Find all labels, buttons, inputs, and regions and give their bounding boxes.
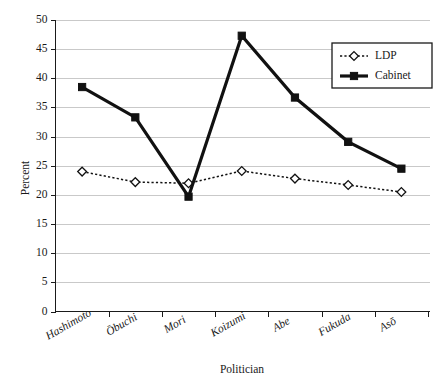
data-point-cabinet-5[interactable] (345, 138, 352, 145)
line-chart: 05101520253035404550 HashimotoŌbuchiMori… (0, 0, 443, 385)
legend-label-ldp: LDP (375, 49, 397, 61)
y-tick-label-0: 0 (42, 305, 48, 317)
y-tick-label-40: 40 (36, 71, 48, 83)
y-tick-label-25: 25 (36, 159, 48, 171)
y-axis-title: Percent (19, 160, 31, 195)
data-point-cabinet-6[interactable] (398, 165, 405, 172)
legend-label-cabinet: Cabinet (375, 69, 412, 81)
data-point-cabinet-0[interactable] (79, 83, 86, 90)
legend-marker-cabinet (350, 72, 357, 79)
data-point-cabinet-2[interactable] (185, 193, 192, 200)
y-tick-label-20: 20 (36, 188, 48, 200)
data-point-cabinet-1[interactable] (132, 114, 139, 121)
y-tick-label-5: 5 (42, 275, 48, 287)
data-point-cabinet-4[interactable] (291, 94, 298, 101)
y-tick-label-50: 50 (36, 13, 48, 25)
y-tick-label-15: 15 (36, 217, 48, 229)
x-axis-title: Politician (220, 363, 264, 375)
chart-container: 05101520253035404550 HashimotoŌbuchiMori… (0, 0, 443, 385)
data-point-cabinet-3[interactable] (238, 32, 245, 39)
y-tick-label-35: 35 (36, 100, 48, 112)
y-tick-label-30: 30 (36, 130, 48, 142)
chart-legend[interactable]: LDPCabinet (332, 43, 432, 88)
y-tick-label-45: 45 (36, 42, 48, 54)
y-tick-label-10: 10 (36, 246, 48, 258)
